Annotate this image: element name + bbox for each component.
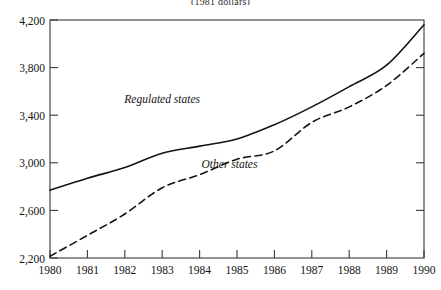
x-tick-label: 1986 xyxy=(263,264,286,276)
x-tick-label: 1990 xyxy=(413,264,436,276)
line-chart-plot: 4,200 3,800 3,400 3,000 2,600 2,200 1980… xyxy=(0,0,441,290)
y-axis-tick-labels: 4,200 3,800 3,400 3,000 2,600 2,200 xyxy=(19,15,45,266)
x-tick-label: 1987 xyxy=(300,264,323,276)
y-tick-label: 3,000 xyxy=(19,157,45,170)
x-tick-label: 1988 xyxy=(338,264,361,276)
x-tick-label: 1985 xyxy=(226,264,249,276)
y-tick-label: 3,400 xyxy=(19,110,45,123)
x-tick-label: 1983 xyxy=(151,264,174,276)
y-tick-label: 2,600 xyxy=(19,205,45,218)
x-tick-label: 1980 xyxy=(39,264,62,276)
series-label-other-states: Other states xyxy=(202,158,258,170)
chart-figure: (1981 dollars) xyxy=(0,0,441,290)
series-label-regulated-states: Regulated states xyxy=(123,93,200,106)
y-tick-label: 3,800 xyxy=(19,62,45,75)
x-tick-label: 1989 xyxy=(375,264,398,276)
x-tick-label: 1984 xyxy=(188,264,211,276)
x-tick-label: 1982 xyxy=(113,264,136,276)
x-axis-tick-labels: 1980 1981 1982 1983 1984 1985 1986 1987 … xyxy=(39,264,436,276)
x-tick-label: 1981 xyxy=(76,264,99,276)
y-tick-label: 4,200 xyxy=(19,15,45,28)
